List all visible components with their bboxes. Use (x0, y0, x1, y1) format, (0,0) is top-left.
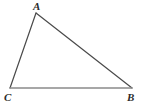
triangle-figure: A C B (0, 0, 141, 112)
triangle-edge-ca (10, 13, 36, 88)
triangle-drawing (0, 0, 141, 112)
vertex-label-c: C (4, 92, 11, 103)
triangle-edge-ab (36, 13, 132, 88)
vertex-label-b: B (127, 92, 134, 103)
vertex-label-a: A (33, 1, 40, 12)
